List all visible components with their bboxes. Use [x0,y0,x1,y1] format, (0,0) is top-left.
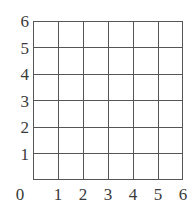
y-axis-tick-label: 4 [7,66,29,83]
x-axis-tick-label: 5 [147,186,169,203]
y-axis-tick-label: 5 [7,39,29,56]
coordinate-grid-figure: 123456 0123456 [0,0,193,217]
grid-lines [33,21,183,180]
y-axis-tick-label: 6 [7,13,29,30]
x-axis-tick-label: 6 [172,186,193,203]
x-axis-tick-label: 1 [47,186,69,203]
plot-area [33,21,183,180]
x-axis-tick-label: 2 [72,186,94,203]
origin-tick-label: 0 [9,186,31,203]
y-axis-tick-label: 1 [7,145,29,162]
x-axis-tick-label: 3 [97,186,119,203]
y-axis-tick-label: 3 [7,92,29,109]
y-axis-tick-label: 2 [7,119,29,136]
x-axis-tick-label: 4 [122,186,144,203]
x-axis-tick-labels: 0123456 [0,186,193,210]
